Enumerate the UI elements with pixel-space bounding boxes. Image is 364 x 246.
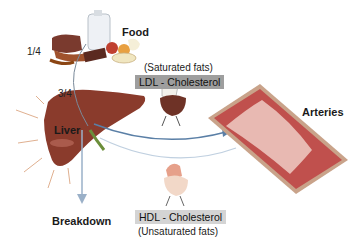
food-label: Food <box>122 26 149 38</box>
fraction-liver-label: 3/4 <box>58 88 72 99</box>
breakdown-label: Breakdown <box>52 215 111 227</box>
hdl-label: HDL - Cholesterol <box>135 210 226 224</box>
liver-label: Liver <box>54 124 80 136</box>
liver-illustration <box>16 90 145 188</box>
ldl-note: (Saturated fats) <box>144 62 213 73</box>
hdl-note: (Unsaturated fats) <box>138 226 218 237</box>
ldl-label: LDL - Cholesterol <box>135 75 224 89</box>
ldl-character <box>160 83 186 126</box>
artery-illustration <box>208 84 348 194</box>
hdl-character <box>164 164 188 206</box>
arteries-label: Arteries <box>302 106 344 118</box>
fraction-food-label: 1/4 <box>27 46 41 57</box>
